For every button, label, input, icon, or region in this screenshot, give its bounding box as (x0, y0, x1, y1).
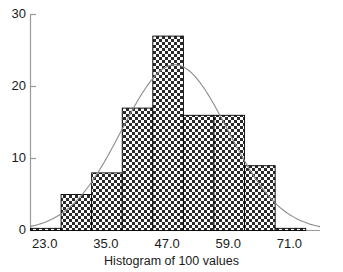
bar-bin-4 (122, 108, 153, 230)
x-tick-label-59: 59.0 (203, 236, 253, 251)
histogram-chart: 30 20 10 0 23.0 35.0 47.0 59.0 71.0 Hist… (0, 0, 343, 272)
bar-bin-9 (275, 228, 306, 230)
bar-bin-2 (61, 195, 92, 231)
histogram-bars (31, 36, 306, 230)
x-tick-label-23: 23.0 (20, 236, 70, 251)
plot-area (0, 0, 343, 272)
y-tick-label-20: 20 (0, 78, 26, 93)
bar-bin-6 (183, 115, 214, 230)
x-tick-label-35: 35.0 (81, 236, 131, 251)
x-tick-label-71: 71.0 (264, 236, 314, 251)
bar-bin-3 (92, 173, 123, 231)
bar-bin-1 (31, 228, 62, 230)
y-tick-label-0: 0 (0, 222, 26, 237)
x-tick-label-47: 47.0 (142, 236, 192, 251)
y-tick-label-10: 10 (0, 150, 26, 165)
x-axis-title: Histogram of 100 values (0, 254, 343, 268)
y-tick-label-30: 30 (0, 6, 26, 21)
